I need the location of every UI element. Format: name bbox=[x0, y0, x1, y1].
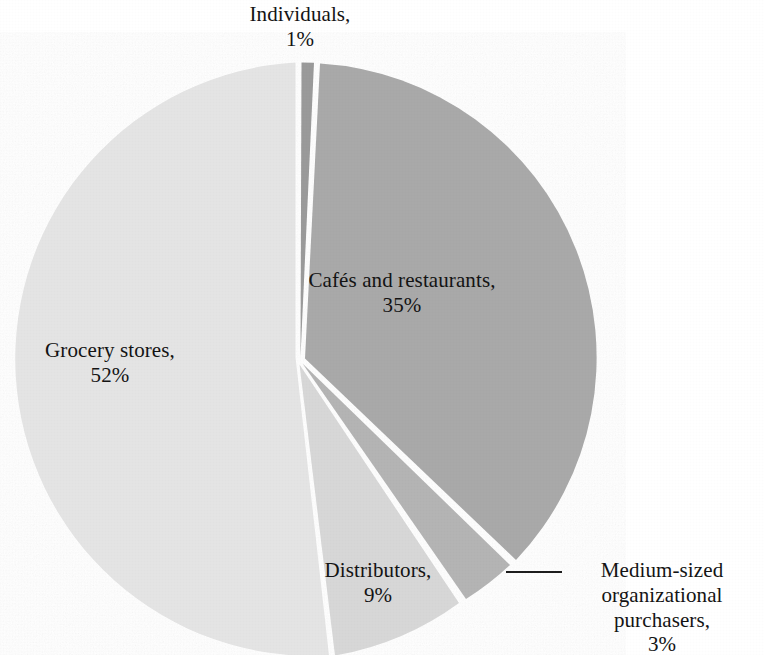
pie-label-grocery-stores: Grocery stores, 52% bbox=[0, 338, 220, 388]
pie-chart-canvas bbox=[0, 0, 764, 655]
leader-line-medium-sized bbox=[506, 571, 562, 573]
pie-label-cafes-and-restaurants: Cafés and restaurants, 35% bbox=[222, 268, 582, 318]
pie-label-medium-name-line1: Medium-sized bbox=[601, 558, 724, 582]
pie-chart-figure: Individuals, 1% Cafés and restaurants, 3… bbox=[0, 0, 764, 655]
pie-label-medium-value: 3% bbox=[560, 632, 764, 655]
pie-label-distributors-name: Distributors, bbox=[278, 558, 478, 583]
pie-label-individuals: Individuals, 1% bbox=[196, 2, 404, 52]
pie-label-grocery-value: 52% bbox=[0, 363, 220, 388]
pie-label-cafes-name: Cafés and restaurants, bbox=[222, 268, 582, 293]
pie-label-distributors-value: 9% bbox=[278, 583, 478, 608]
pie-label-medium-name-line2: organizational purchasers, bbox=[601, 583, 722, 632]
pie-label-individuals-name: Individuals, bbox=[196, 2, 404, 27]
pie-label-grocery-name: Grocery stores, bbox=[0, 338, 220, 363]
pie-label-distributors: Distributors, 9% bbox=[278, 558, 478, 608]
pie-label-medium-sized-organizational-purchasers: Medium-sized organizational purchasers, … bbox=[560, 558, 764, 655]
pie-label-individuals-value: 1% bbox=[196, 27, 404, 52]
pie-label-cafes-value: 35% bbox=[222, 293, 582, 318]
